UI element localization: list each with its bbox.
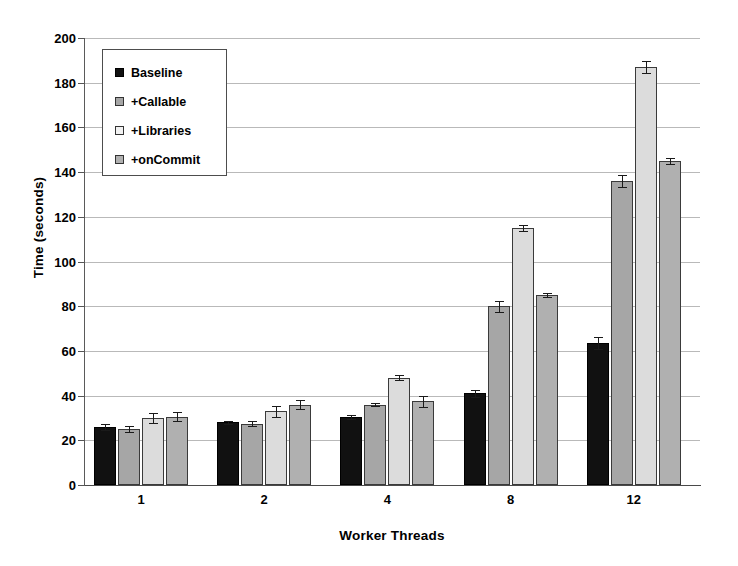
error-bar-cap (173, 421, 182, 422)
error-bar (622, 175, 623, 186)
legend-label: +onCommit (131, 153, 200, 167)
error-bar (646, 61, 647, 72)
bar (217, 422, 239, 485)
error-bar-cap (101, 424, 110, 425)
error-bar-cap (666, 164, 675, 165)
error-bar-cap (642, 61, 651, 62)
error-bar (300, 400, 301, 409)
y-axis-tick-label: 80 (36, 300, 76, 313)
error-bar (475, 390, 476, 397)
gridline (84, 217, 700, 218)
legend-item: +Callable (115, 87, 226, 116)
bar (289, 405, 311, 485)
y-axis-tick-label: 100 (36, 256, 76, 269)
bar (265, 411, 287, 485)
bar (512, 228, 534, 485)
error-bar-cap (224, 424, 233, 425)
bar (340, 417, 362, 485)
x-axis-tick-label: 1 (111, 492, 171, 507)
error-bar-cap (543, 297, 552, 298)
bar (118, 429, 140, 485)
bar (166, 417, 188, 485)
bar (659, 161, 681, 485)
error-bar-cap (248, 426, 257, 427)
y-axis-tick-mark (78, 306, 85, 307)
bar (635, 67, 657, 485)
error-bar-cap (666, 158, 675, 159)
bar (364, 405, 386, 485)
bar (412, 401, 434, 485)
error-bar-cap (395, 380, 404, 381)
y-axis-tick-mark (78, 485, 85, 486)
error-bar-cap (371, 406, 380, 407)
x-axis-title: Worker Threads (84, 528, 700, 543)
legend-swatch-icon (115, 68, 124, 77)
legend-swatch-icon (115, 97, 124, 106)
y-axis-tick-label: 120 (36, 211, 76, 224)
error-bar-cap (594, 349, 603, 350)
legend-swatch-icon (115, 155, 124, 164)
y-axis-tick-label: 180 (36, 77, 76, 90)
bar (142, 418, 164, 485)
error-bar-cap (224, 421, 233, 422)
y-axis-tick-label: 40 (36, 390, 76, 403)
error-bar (499, 301, 500, 312)
y-axis-tick-mark (78, 217, 85, 218)
bar (536, 295, 558, 485)
bar (388, 378, 410, 485)
error-bar-cap (471, 390, 480, 391)
y-axis-tick-mark (78, 172, 85, 173)
y-axis-tick-labels: 020406080100120140160180200 (22, 38, 76, 485)
error-bar-cap (371, 403, 380, 404)
error-bar (423, 396, 424, 407)
bar (94, 427, 116, 485)
y-axis-tick-label: 140 (36, 166, 76, 179)
error-bar-cap (173, 412, 182, 413)
gridline (84, 38, 700, 39)
error-bar-cap (471, 397, 480, 398)
error-bar-cap (125, 426, 134, 427)
error-bar-cap (495, 301, 504, 302)
error-bar-cap (395, 375, 404, 376)
legend-label: +Libraries (131, 124, 191, 138)
error-bar-cap (618, 175, 627, 176)
error-bar-cap (618, 187, 627, 188)
y-axis-tick-label: 200 (36, 32, 76, 45)
bar (587, 343, 609, 485)
error-bar-cap (347, 415, 356, 416)
y-axis-tick-mark (78, 440, 85, 441)
error-bar-cap (543, 293, 552, 294)
y-axis-tick-mark (78, 127, 85, 128)
y-axis-tick-mark (78, 262, 85, 263)
error-bar-cap (594, 337, 603, 338)
x-axis-tick-label: 2 (234, 492, 294, 507)
legend-label: Baseline (131, 66, 182, 80)
gridline (84, 306, 700, 307)
error-bar-cap (125, 432, 134, 433)
chart-legend: Baseline+Callable+Libraries+onCommit (102, 49, 227, 176)
gridline (84, 262, 700, 263)
error-bar-cap (272, 406, 281, 407)
y-axis-tick-label: 60 (36, 345, 76, 358)
error-bar (598, 337, 599, 348)
legend-item: Baseline (115, 58, 226, 87)
error-bar-cap (495, 312, 504, 313)
bar (488, 306, 510, 485)
x-axis-line (84, 485, 701, 486)
error-bar-cap (519, 225, 528, 226)
y-axis-tick-mark (78, 38, 85, 39)
error-bar-cap (149, 413, 158, 414)
x-axis-tick-label: 8 (481, 492, 541, 507)
error-bar-cap (519, 231, 528, 232)
error-bar (276, 406, 277, 417)
error-bar-cap (642, 73, 651, 74)
y-axis-tick-label: 20 (36, 434, 76, 447)
bar (464, 393, 486, 485)
error-bar-cap (296, 409, 305, 410)
y-axis-tick-label: 160 (36, 121, 76, 134)
error-bar (177, 412, 178, 421)
error-bar-cap (419, 396, 428, 397)
error-bar-cap (149, 423, 158, 424)
error-bar-cap (419, 407, 428, 408)
error-bar (523, 225, 524, 232)
